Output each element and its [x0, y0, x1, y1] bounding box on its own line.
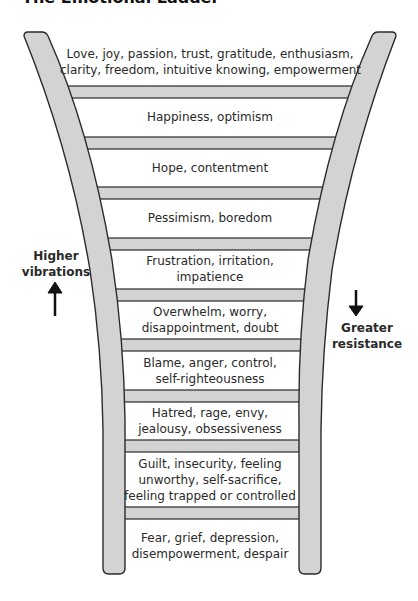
- ladder-step-3: Hope, contentment: [60, 160, 360, 176]
- ladder-step-6: Overwhelm, worry, disappointment, doubt: [60, 304, 360, 336]
- ladder-step-2: Happiness, optimism: [60, 109, 360, 125]
- ladder-graphic: [0, 0, 418, 601]
- greater-resistance-label: Greater resistance: [322, 320, 412, 352]
- ladder-step-4: Pessimism, boredom: [60, 210, 360, 226]
- ladder-step-9: Guilt, insecurity, feeling unworthy, sel…: [60, 456, 360, 504]
- higher-vibrations-label: Higher vibrations: [14, 248, 98, 280]
- ladder-step-5: Frustration, irritation, impatience: [60, 253, 360, 285]
- ladder-step-7: Blame, anger, control, self-righteousnes…: [60, 355, 360, 387]
- ladder-step-10: Fear, grief, depression, disempowerment,…: [60, 530, 360, 562]
- ladder-step-8: Hatred, rage, envy, jealousy, obsessiven…: [60, 405, 360, 437]
- ladder-step-1: Love, joy, passion, trust, gratitude, en…: [60, 46, 360, 78]
